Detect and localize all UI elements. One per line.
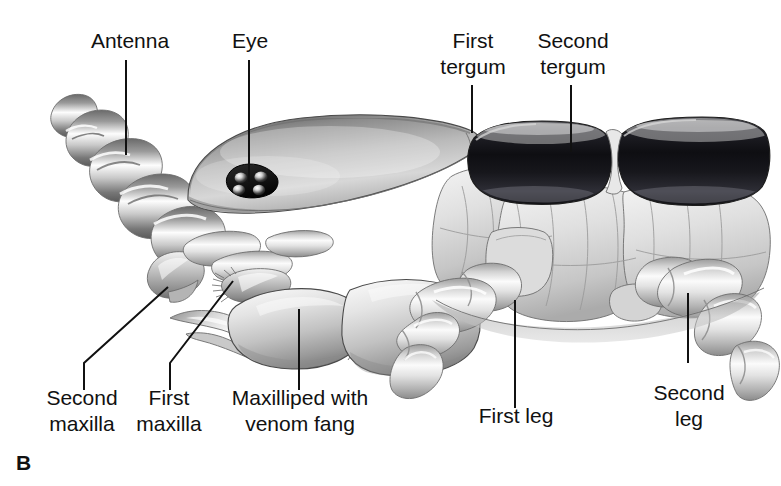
svg-text:First: First [149,386,190,409]
anatomy-figure-panel-b: Antenna Eye First tergum Second tergum S… [0,0,781,486]
label-eye: Eye [232,29,268,52]
svg-text:Second: Second [653,381,724,404]
panel-letter: B [16,451,31,474]
svg-text:tergum: tergum [440,55,505,78]
ocellus-4 [253,185,265,195]
label-first-maxilla: First maxilla [136,386,202,435]
label-second-tergum: Second tergum [537,29,608,78]
svg-text:Second: Second [537,29,608,52]
maxillary-telopodite-distal [266,231,334,257]
ocellus-2 [254,172,267,183]
svg-text:leg: leg [675,407,703,430]
head-capsule [186,115,480,216]
svg-text:maxilla: maxilla [136,412,202,435]
label-first-tergum: First tergum [440,29,505,78]
label-first-leg: First leg [479,404,554,427]
svg-text:maxilla: maxilla [49,412,115,435]
label-maxilliped-with-venom-fang: Maxilliped with venom fang [232,386,369,435]
leader-second-maxilla [84,287,168,390]
centipede-anatomy-illustration: Antenna Eye First tergum Second tergum S… [0,0,781,486]
illustration-artwork [51,94,780,400]
ocellus-1 [235,173,248,184]
svg-text:tergum: tergum [540,55,605,78]
label-antenna: Antenna [91,29,170,52]
svg-text:venom fang: venom fang [245,412,355,435]
svg-text:Maxilliped with: Maxilliped with [232,386,369,409]
ocellus-3 [233,185,245,195]
label-second-leg: Second leg [653,381,724,430]
label-second-maxilla: Second maxilla [46,386,117,435]
svg-text:First: First [453,29,494,52]
svg-text:Second: Second [46,386,117,409]
